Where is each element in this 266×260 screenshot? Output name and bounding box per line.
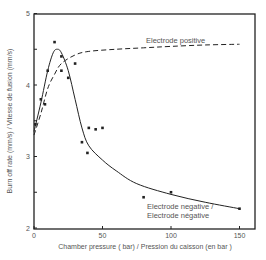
y-axis-title: Burn off rate (mm/s) / Vitesse de fusion…	[6, 49, 14, 194]
data-point	[60, 55, 63, 58]
data-point	[142, 196, 145, 199]
x-tick-label: 100	[165, 232, 177, 239]
y-tick-label: 2	[26, 225, 30, 232]
series-points	[34, 41, 241, 210]
series-curves	[34, 44, 240, 208]
data-point	[88, 127, 91, 130]
electrode-negative-label: Electrode negative /	[147, 202, 214, 211]
data-point	[238, 207, 241, 210]
y-tick-label: 4	[26, 82, 30, 89]
data-point	[60, 69, 63, 72]
data-point	[46, 69, 49, 72]
data-point	[34, 123, 37, 126]
series-labels: Electrode positiveElectrode negative /El…	[146, 36, 214, 220]
data-point	[101, 127, 104, 130]
data-point	[53, 41, 56, 44]
y-tick-label: 3	[26, 153, 30, 160]
data-point	[81, 141, 84, 144]
data-point	[86, 152, 89, 155]
y-tick-label: 5	[26, 10, 30, 17]
electrode-negative-label: Electrode négative	[147, 211, 209, 220]
y-axis: 2345	[26, 10, 37, 232]
x-axis-title: Chamber pressure ( bar) / Pression du ca…	[58, 243, 232, 251]
chart-canvas: 2345 050100150 Electrode positiveElectro…	[0, 0, 266, 260]
data-point	[44, 103, 47, 106]
electrode-positive-label: Electrode positive	[146, 36, 205, 45]
electrode-negative-curve	[34, 49, 240, 208]
data-point	[74, 62, 77, 65]
data-point	[170, 191, 173, 194]
x-tick-label: 150	[234, 232, 246, 239]
data-point	[67, 77, 70, 80]
burn-off-rate-chart: 2345 050100150 Electrode positiveElectro…	[0, 0, 266, 260]
data-point	[40, 98, 43, 101]
data-point	[94, 128, 97, 131]
x-tick-label: 0	[32, 232, 36, 239]
x-tick-label: 50	[99, 232, 107, 239]
electrode-positive-curve	[34, 44, 240, 135]
x-axis: 050100150	[32, 226, 245, 239]
